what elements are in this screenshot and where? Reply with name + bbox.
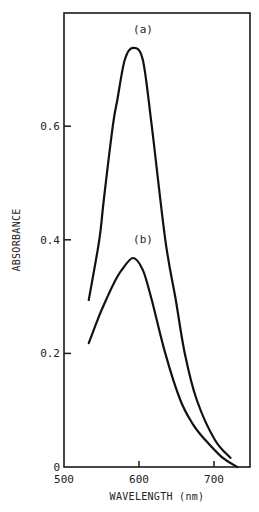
x-tick-label: 600 bbox=[129, 473, 149, 486]
y-tick-label: 0 bbox=[53, 461, 60, 474]
x-axis-title: WAVELENGTH (nm) bbox=[110, 491, 205, 502]
y-axis-title: ABSORBANCE bbox=[11, 208, 22, 271]
curve-label: (a) bbox=[133, 23, 153, 36]
curves bbox=[89, 48, 238, 467]
y-axis-ticks: 00.20.40.6 bbox=[40, 120, 71, 474]
plot-frame bbox=[64, 13, 250, 467]
y-tick-label: 0.4 bbox=[40, 234, 60, 247]
x-tick-label: 500 bbox=[54, 473, 74, 486]
x-axis-ticks: 500600700 bbox=[54, 461, 224, 486]
absorbance-chart: 500600700 00.20.40.6 (a)(b) WAVELENGTH (… bbox=[0, 0, 259, 512]
y-tick-label: 0.2 bbox=[40, 347, 60, 360]
y-tick-label: 0.6 bbox=[40, 120, 60, 133]
x-tick-label: 700 bbox=[204, 473, 224, 486]
curve-label: (b) bbox=[133, 233, 153, 246]
curve-b bbox=[89, 258, 238, 467]
curve-a bbox=[89, 48, 231, 458]
